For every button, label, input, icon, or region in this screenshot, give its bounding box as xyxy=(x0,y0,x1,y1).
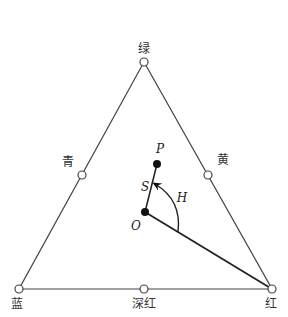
midpoint-cyan xyxy=(78,171,86,179)
label-yellow: 黄 xyxy=(217,150,229,167)
point-p xyxy=(153,160,161,168)
label-cyan: 青 xyxy=(62,152,74,169)
point-o xyxy=(141,208,149,216)
midpoint-magenta xyxy=(140,285,148,293)
label-saturation: S xyxy=(141,180,149,194)
label-point-p: P xyxy=(156,142,164,156)
label-magenta: 深红 xyxy=(132,294,156,311)
vertex-blue xyxy=(15,285,23,293)
label-hue: H xyxy=(177,191,187,205)
label-green: 绿 xyxy=(138,39,150,56)
midpoint-yellow xyxy=(204,171,212,179)
label-red: 红 xyxy=(265,294,277,311)
reference-line-o-red xyxy=(145,212,272,289)
vertex-green xyxy=(140,58,148,66)
color-triangle xyxy=(19,62,272,289)
label-blue: 蓝 xyxy=(11,294,23,311)
label-point-o: O xyxy=(131,219,141,233)
vertex-red xyxy=(268,285,276,293)
